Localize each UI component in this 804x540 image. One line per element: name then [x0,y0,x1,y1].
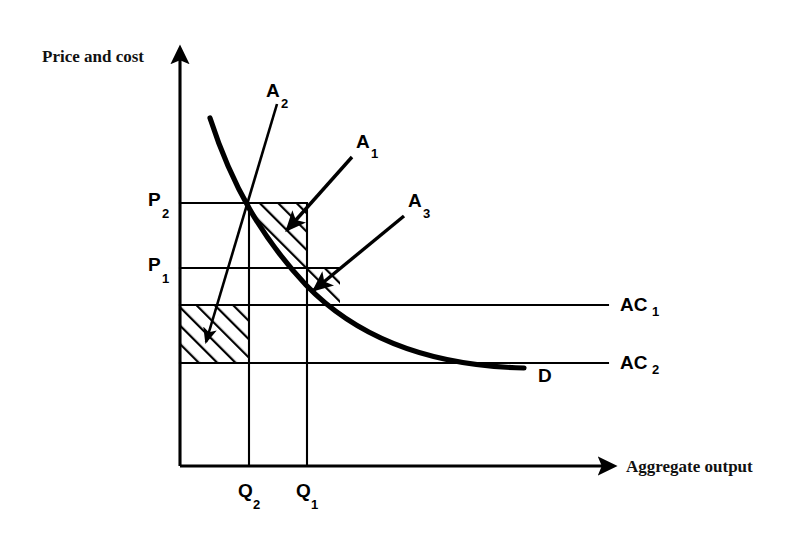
ac2-label-group: AC 2 [620,352,659,377]
a3-leader-arrow [314,216,404,290]
a1-label: A [356,131,370,152]
a1-subscript: 1 [371,146,378,161]
a2-subscript: 2 [281,96,288,111]
p1-label: P [148,254,161,275]
a1-leader-arrow [287,157,352,230]
ac1-label-group: AC 1 [620,294,659,319]
ac2-subscript: 2 [652,362,659,377]
q2-subscript: 2 [253,497,260,512]
p2-subscript: 2 [162,206,169,221]
ac1-subscript: 1 [652,304,659,319]
a2-label: A [266,80,280,101]
q1-label: Q [296,480,311,501]
x-tick-q1: Q 1 [296,480,318,512]
ac1-label: AC [620,294,648,315]
economics-diagram: Price and cost Aggregate output P 2 P 1 … [0,0,804,540]
y-axis-label: Price and cost [42,47,144,66]
ac2-label: AC [620,352,648,373]
q1-subscript: 1 [311,497,318,512]
a3-label: A [408,190,422,211]
y-tick-p1: P 1 [148,254,169,286]
a3-subscript: 3 [423,206,430,221]
p2-label: P [148,189,161,210]
x-tick-q2: Q 2 [238,480,260,512]
x-axis-label: Aggregate output [626,457,753,476]
demand-curve-label: D [538,365,552,386]
p1-subscript: 1 [162,271,169,286]
demand-curve [210,118,524,368]
annotation-a1: A 1 [356,131,378,161]
axes [180,50,612,466]
annotation-a3: A 3 [408,190,430,221]
q2-label: Q [238,480,253,501]
y-tick-p2: P 2 [148,189,169,221]
figure-root: Price and cost Aggregate output P 2 P 1 … [0,0,804,540]
